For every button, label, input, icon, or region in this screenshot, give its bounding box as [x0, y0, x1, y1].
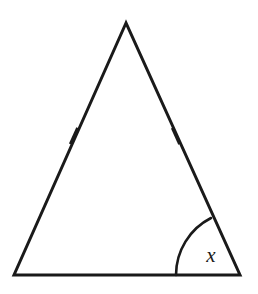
- triangle-diagram-canvas: x: [0, 0, 258, 294]
- geometry-figure: x: [0, 0, 258, 294]
- angle-label-x: x: [205, 243, 216, 267]
- figure-background: [0, 0, 258, 294]
